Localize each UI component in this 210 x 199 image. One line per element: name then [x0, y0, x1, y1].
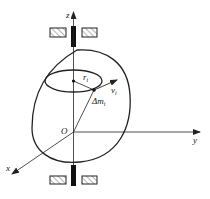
- velocity-label: vi: [111, 85, 117, 96]
- rigid-body-outline: [32, 50, 130, 163]
- radius-line: [74, 81, 95, 90]
- x-axis: [12, 132, 74, 174]
- z-axis-label: z: [65, 10, 70, 20]
- bearing-block-left: [50, 28, 66, 37]
- ellipse-center-dot: [72, 79, 75, 82]
- origin-label: O: [61, 126, 68, 136]
- radius-label: ri: [83, 72, 89, 83]
- mass-label: Δmi: [91, 96, 106, 107]
- shaft-bottom: [71, 165, 76, 186]
- rigid-body-diagram: z y x O ri vi Δmi: [0, 0, 210, 199]
- x-axis-label: x: [5, 163, 10, 173]
- bearing-block-right: [82, 28, 97, 37]
- bearing-block-left: [50, 176, 66, 184]
- position-line: [74, 90, 95, 132]
- bearing-block-right: [82, 176, 97, 184]
- bottom-bearing: [50, 165, 97, 186]
- y-axis-label: y: [192, 135, 197, 145]
